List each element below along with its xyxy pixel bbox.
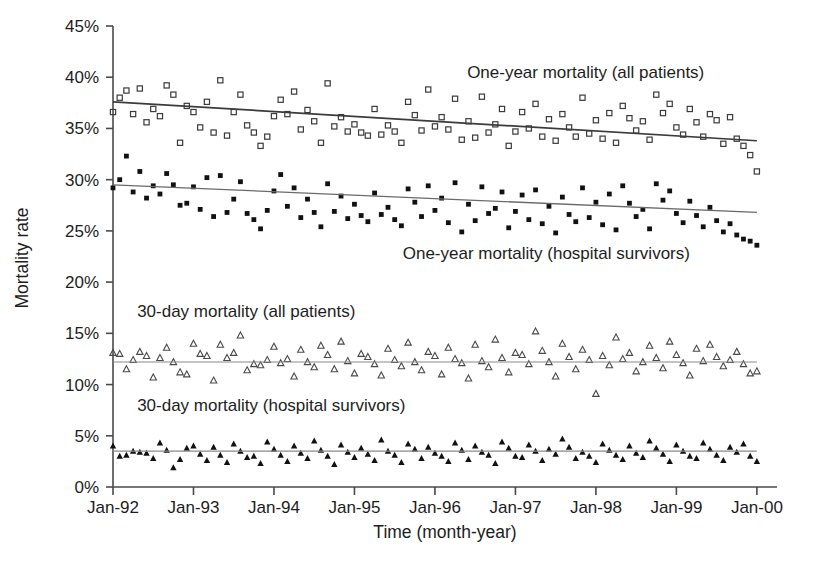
data-point — [198, 125, 203, 130]
data-point — [157, 440, 163, 446]
data-point — [352, 202, 357, 207]
data-point — [512, 349, 518, 355]
data-point — [211, 130, 216, 135]
data-point — [472, 341, 478, 347]
data-point — [459, 230, 464, 235]
data-point — [171, 182, 176, 187]
data-point — [359, 130, 364, 135]
data-point — [204, 352, 210, 358]
data-point — [324, 351, 330, 357]
data-point — [499, 106, 504, 111]
data-point — [593, 459, 599, 465]
data-point — [110, 443, 116, 449]
data-point — [224, 459, 230, 465]
data-point — [245, 123, 250, 128]
data-point — [433, 208, 438, 213]
data-point — [345, 216, 350, 221]
data-point — [305, 107, 310, 112]
data-point — [687, 106, 692, 111]
data-point — [298, 127, 303, 132]
x-tick-label: Jan-95 — [328, 498, 380, 517]
data-point — [640, 454, 646, 460]
data-point — [311, 438, 317, 444]
data-point — [465, 375, 471, 381]
data-point — [547, 204, 552, 209]
data-point — [405, 339, 411, 345]
data-point — [660, 365, 666, 371]
data-point — [351, 370, 357, 376]
data-point — [714, 218, 719, 223]
data-point — [506, 225, 511, 230]
data-point — [607, 192, 612, 197]
data-point — [727, 444, 733, 450]
y-tick-label: 40% — [65, 68, 99, 87]
data-point — [593, 118, 598, 123]
data-point — [358, 350, 364, 356]
y-axis-title: Mortality rate — [12, 207, 32, 308]
data-point — [406, 99, 411, 104]
data-point — [184, 201, 189, 206]
data-point — [586, 453, 592, 459]
data-point — [634, 214, 639, 219]
data-point — [593, 390, 599, 396]
data-point — [398, 459, 404, 465]
data-point — [170, 464, 176, 470]
data-point — [418, 367, 424, 373]
data-point — [473, 135, 478, 140]
data-point — [291, 89, 296, 94]
data-point — [190, 340, 196, 346]
data-point — [506, 143, 511, 148]
data-point — [258, 143, 263, 148]
data-point — [277, 360, 283, 366]
data-point — [614, 227, 619, 232]
data-point — [345, 358, 351, 364]
data-point — [265, 208, 270, 213]
data-point — [412, 113, 417, 118]
data-point — [720, 363, 726, 369]
data-point — [520, 193, 525, 198]
y-tick-label: 35% — [65, 119, 99, 138]
data-point — [485, 452, 491, 458]
data-point — [459, 447, 465, 453]
data-point — [325, 81, 330, 86]
data-point — [667, 189, 672, 194]
data-point — [157, 355, 163, 361]
data-point — [666, 458, 672, 464]
series-label-2: One-year mortality (hospital survivors) — [403, 244, 690, 263]
data-point — [734, 348, 740, 354]
data-point — [351, 454, 357, 460]
data-point — [707, 341, 713, 347]
data-point — [211, 214, 216, 219]
data-point — [721, 141, 726, 146]
data-point — [164, 171, 169, 176]
data-point — [386, 205, 391, 210]
data-point — [513, 209, 518, 214]
data-point — [620, 183, 625, 188]
data-point — [600, 222, 605, 227]
data-point — [406, 186, 411, 191]
data-point — [304, 455, 310, 461]
data-point — [647, 226, 652, 231]
data-point — [312, 119, 317, 124]
x-tick-label: Jan-97 — [489, 498, 541, 517]
data-point — [653, 445, 659, 451]
data-point — [492, 336, 498, 342]
x-tick-label: Jan-96 — [409, 498, 461, 517]
data-point — [284, 458, 290, 464]
data-point — [143, 352, 149, 358]
data-point — [740, 441, 746, 447]
data-point — [741, 143, 746, 148]
data-point — [700, 358, 706, 364]
data-point — [694, 120, 699, 125]
data-point — [325, 181, 330, 186]
data-point — [587, 215, 592, 220]
data-point — [573, 219, 578, 224]
data-point — [378, 372, 384, 378]
data-point — [439, 115, 444, 120]
x-axis-ticks: Jan-92Jan-93Jan-94Jan-95Jan-96Jan-97Jan-… — [87, 487, 783, 517]
y-tick-label: 30% — [65, 171, 99, 190]
data-point — [579, 449, 585, 455]
x-axis-title: Time (month-year) — [373, 522, 516, 542]
data-point — [479, 94, 484, 99]
y-tick-label: 0% — [74, 478, 99, 497]
